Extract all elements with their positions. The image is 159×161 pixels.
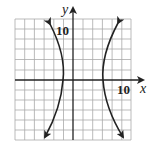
hyperbola-graph	[0, 0, 159, 161]
x-tick-label: 10	[117, 83, 130, 96]
x-axis-label: x	[140, 82, 146, 96]
y-axis-label: y	[62, 3, 68, 17]
y-tick-label: 10	[56, 24, 69, 37]
